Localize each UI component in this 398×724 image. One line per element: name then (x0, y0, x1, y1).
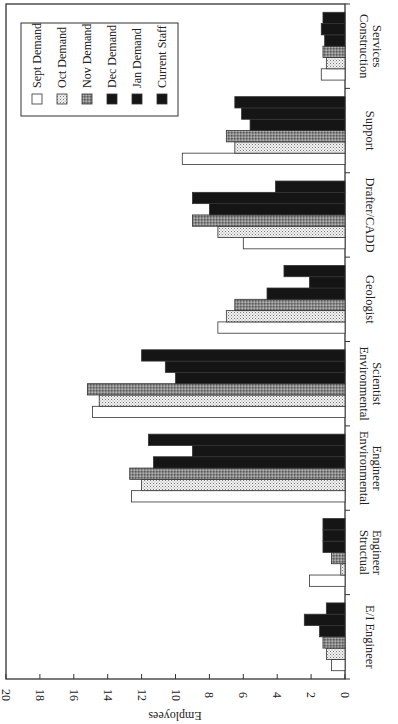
bar-dec-demand (176, 372, 346, 383)
bar-current-staff (284, 265, 345, 276)
bar-nov-demand (323, 637, 345, 648)
bar-jan-demand (242, 108, 345, 119)
category-group (304, 603, 345, 671)
bar-sept-demand (92, 406, 345, 417)
legend-swatch (82, 94, 92, 104)
value-tick-label: 18 (33, 689, 47, 701)
legend-swatch (132, 94, 142, 104)
category-label: Structual (357, 530, 371, 576)
category-group (192, 181, 345, 249)
bar-current-staff (276, 181, 345, 192)
bar-oct-demand (341, 564, 345, 575)
legend-swatch (157, 94, 167, 104)
bar-nov-demand (323, 46, 345, 57)
bar-jan-demand (304, 614, 345, 625)
bar-current-staff (323, 12, 345, 23)
legend: Sept DemandOct DemandNov DemandDec Deman… (21, 23, 178, 116)
bar-oct-demand (99, 395, 345, 406)
value-tick-label: 4 (270, 692, 284, 698)
bar-sept-demand (309, 575, 345, 586)
value-tick-label: 0 (338, 692, 352, 698)
legend-swatch (57, 94, 67, 104)
bar-dec-demand (267, 288, 345, 299)
bar-jan-demand (321, 24, 345, 35)
category-label: Engineer (370, 446, 384, 492)
value-tick-label: 10 (169, 689, 183, 701)
value-tick-label: 8 (202, 692, 216, 698)
category-label: Scientist (370, 362, 384, 406)
bar-nov-demand (331, 552, 345, 563)
bar-sept-demand (321, 69, 345, 80)
bar-sept-demand (218, 322, 345, 333)
category-group (130, 434, 345, 502)
category-label: Services (370, 25, 384, 67)
value-tick-label: 16 (67, 689, 81, 701)
category-group (182, 97, 345, 165)
bar-current-staff (148, 434, 345, 445)
value-tick-label: 6 (236, 692, 250, 698)
bar-sept-demand (182, 153, 345, 164)
legend-label: Oct Demand (55, 27, 69, 88)
bar-dec-demand (325, 35, 345, 46)
legend-label: Nov Demand (80, 24, 94, 88)
category-label: Support (363, 111, 377, 151)
legend-swatch (107, 94, 117, 104)
bar-nov-demand (226, 131, 345, 142)
bar-sept-demand (331, 659, 345, 670)
bar-dec-demand (320, 626, 345, 637)
value-tick-label: 12 (135, 689, 149, 701)
legend-swatch (32, 94, 42, 104)
bar-current-staff (235, 97, 345, 108)
bar-oct-demand (142, 479, 345, 490)
bar-dec-demand (250, 119, 345, 130)
legend-label: Sept Demand (30, 23, 44, 88)
bar-current-staff (142, 350, 345, 361)
category-label: Drafter/CADD (363, 177, 377, 252)
bar-nov-demand (235, 299, 345, 310)
category-label: Environmental (357, 347, 371, 422)
bar-current-staff (326, 603, 345, 614)
bar-oct-demand (226, 311, 345, 322)
employee-demand-chart: E/I EngineerStructualEngineerEnvironment… (0, 0, 398, 724)
bar-jan-demand (192, 192, 345, 203)
bar-oct-demand (235, 142, 345, 153)
value-tick-label: 20 (0, 689, 13, 701)
bar-jan-demand (165, 361, 345, 372)
value-tick-label: 2 (304, 692, 318, 698)
bar-dec-demand (209, 204, 345, 215)
bar-nov-demand (192, 215, 345, 226)
bar-sept-demand (131, 491, 345, 502)
category-label: Geologist (363, 275, 377, 324)
category-label: Engineer (370, 530, 384, 576)
category-label: Environmental (357, 431, 371, 506)
bar-jan-demand (309, 277, 345, 288)
bar-dec-demand (323, 541, 345, 552)
legend-label: Dec Demand (105, 25, 119, 88)
bar-dec-demand (153, 457, 345, 468)
value-tick-label: 14 (101, 689, 115, 701)
bar-oct-demand (326, 648, 345, 659)
bar-nov-demand (130, 468, 345, 479)
bar-nov-demand (87, 384, 345, 395)
category-label: E/I Engineer (363, 605, 377, 669)
bar-oct-demand (326, 57, 345, 68)
category-group (321, 12, 345, 80)
bar-current-staff (323, 519, 345, 530)
value-axis: 02468101214161820Employees (0, 674, 352, 723)
legend-label: Current Staff (155, 25, 169, 88)
bar-jan-demand (192, 445, 345, 456)
category-group (218, 265, 345, 333)
category-label: Construction (357, 14, 371, 79)
bar-jan-demand (323, 530, 345, 541)
axis-title: Employees (148, 709, 202, 723)
category-group (309, 519, 345, 587)
category-group (87, 350, 345, 418)
bar-sept-demand (243, 238, 345, 249)
chart-svg: E/I EngineerStructualEngineerEnvironment… (0, 0, 398, 724)
legend-label: Jan Demand (130, 28, 144, 88)
bar-oct-demand (218, 226, 345, 237)
